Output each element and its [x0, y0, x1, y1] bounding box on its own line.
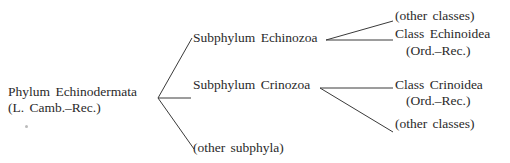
node-echinozoa-other-classes: (other classes): [395, 8, 475, 24]
speck-mark: [25, 125, 28, 128]
node-class-echinoidea: Class Echinoidea: [395, 26, 490, 42]
node-crinozoa-other-classes: (other classes): [395, 116, 475, 132]
node-class-crinoidea: Class Crinoidea: [395, 77, 483, 93]
node-echinoidea-range: (Ord.–Rec.): [406, 43, 470, 59]
edge-root-other-subphyla: [158, 98, 194, 149]
node-subphylum-crinozoa: Subphylum Crinozoa: [193, 77, 310, 93]
edge-echinozoa-other-classes: [326, 21, 393, 40]
node-other-subphyla: (other subphyla): [193, 140, 284, 156]
edge-root-echinozoa: [158, 38, 192, 98]
edge-crinozoa-other-classes: [320, 88, 393, 132]
node-phylum-echinodermata: Phylum Echinodermata: [8, 84, 137, 100]
node-crinoidea-range: (Ord.–Rec.): [406, 93, 470, 109]
node-subphylum-echinozoa: Subphylum Echinozoa: [193, 30, 318, 46]
node-phylum-range: (L. Camb.–Rec.): [8, 100, 101, 116]
